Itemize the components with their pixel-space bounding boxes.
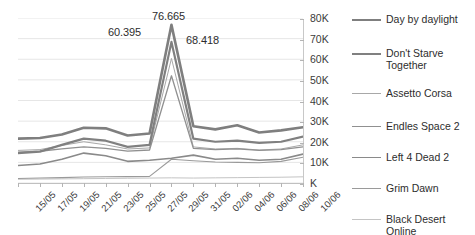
category-tick-mark — [18, 183, 19, 187]
category-tick-mark — [237, 183, 238, 187]
value-tick-label: 30K — [310, 116, 329, 126]
legend-swatch-icon — [352, 53, 381, 55]
category-tick-label: 04/06 — [252, 189, 277, 214]
category-tick-label: 29/05 — [186, 189, 211, 214]
series-line — [18, 42, 303, 153]
value-tick-label: 70K — [310, 34, 329, 44]
category-tick-mark — [259, 183, 260, 187]
legend-swatch-icon — [352, 19, 381, 21]
value-tick-label: 10K — [310, 157, 329, 167]
data-point-label: 76.665 — [152, 10, 185, 22]
legend-item[interactable]: Don't Starve Together — [352, 48, 472, 71]
legend-item[interactable]: Left 4 Dead 2 — [352, 152, 449, 164]
legend-item[interactable]: Day by daylight — [352, 14, 458, 26]
category-tick-mark — [128, 183, 129, 187]
value-tick-label: 20K — [310, 137, 329, 147]
legend-item[interactable]: Grim Dawn — [352, 183, 439, 195]
legend-swatch-icon — [352, 157, 381, 158]
category-axis: 15/0517/0519/0521/0523/0525/0527/0529/05… — [18, 183, 303, 235]
category-tick-label: 02/06 — [230, 189, 255, 214]
category-tick-mark — [106, 183, 107, 187]
data-point-label: 68.418 — [186, 34, 219, 46]
category-tick-label: 31/05 — [208, 189, 233, 214]
player-count-line-chart: 60.39576.66568.418 80K70K60K50K40K30K20K… — [0, 0, 475, 235]
category-tick-mark — [303, 183, 304, 187]
value-tick-mark — [300, 143, 304, 144]
value-axis: 80K70K60K50K40K30K20K10KK — [303, 10, 349, 195]
category-tick-label: 27/05 — [164, 189, 189, 214]
data-point-label: 60.395 — [108, 26, 141, 38]
value-tick-label: 80K — [310, 13, 329, 23]
value-tick-mark — [300, 19, 304, 20]
legend-label: Don't Starve Together — [386, 48, 472, 71]
category-tick-mark — [40, 183, 41, 187]
legend-swatch-icon — [352, 93, 381, 94]
category-tick-mark — [62, 183, 63, 187]
chart-legend: Day by daylightDon't Starve TogetherAsse… — [352, 14, 475, 229]
category-tick-mark — [215, 183, 216, 187]
category-tick-label: 06/06 — [274, 189, 299, 214]
legend-label: Assetto Corsa — [386, 88, 452, 100]
value-tick-mark — [300, 102, 304, 103]
legend-swatch-icon — [352, 126, 381, 127]
category-tick-label: 19/05 — [77, 189, 102, 214]
category-tick-label: 21/05 — [99, 189, 124, 214]
legend-item[interactable]: Assetto Corsa — [352, 88, 452, 100]
category-tick-mark — [193, 183, 194, 187]
category-tick-mark — [281, 183, 282, 187]
series-line — [18, 76, 303, 152]
legend-label: Day by daylight — [386, 14, 458, 26]
category-tick-label: 23/05 — [121, 189, 146, 214]
legend-swatch-icon — [352, 188, 381, 189]
legend-label: Black Desert Online — [386, 214, 472, 235]
chart-plot-svg — [18, 18, 303, 183]
legend-label: Left 4 Dead 2 — [386, 152, 449, 164]
category-tick-label: 15/05 — [33, 189, 58, 214]
legend-label: Endles Space 2 — [386, 121, 460, 133]
value-tick-label: 40K — [310, 96, 329, 106]
legend-item[interactable]: Black Desert Online — [352, 214, 472, 235]
value-tick-label: 60K — [310, 54, 329, 64]
series-line — [18, 153, 303, 165]
category-tick-label: 08/06 — [296, 189, 321, 214]
plot-area — [18, 18, 303, 183]
legend-item[interactable]: Endles Space 2 — [352, 121, 460, 133]
category-tick-mark — [150, 183, 151, 187]
category-tick-label: 25/05 — [143, 189, 168, 214]
value-tick-label: K — [310, 178, 317, 188]
category-tick-mark — [171, 183, 172, 187]
series-line — [18, 58, 303, 150]
category-tick-mark — [84, 183, 85, 187]
value-tick-mark — [300, 122, 304, 123]
value-tick-mark — [300, 40, 304, 41]
value-tick-mark — [300, 81, 304, 82]
value-tick-label: 50K — [310, 75, 329, 85]
legend-swatch-icon — [352, 219, 381, 220]
legend-label: Grim Dawn — [386, 183, 439, 195]
value-tick-mark — [300, 163, 304, 164]
category-axis-line — [18, 183, 303, 184]
value-tick-mark — [300, 60, 304, 61]
category-tick-label: 17/05 — [55, 189, 80, 214]
